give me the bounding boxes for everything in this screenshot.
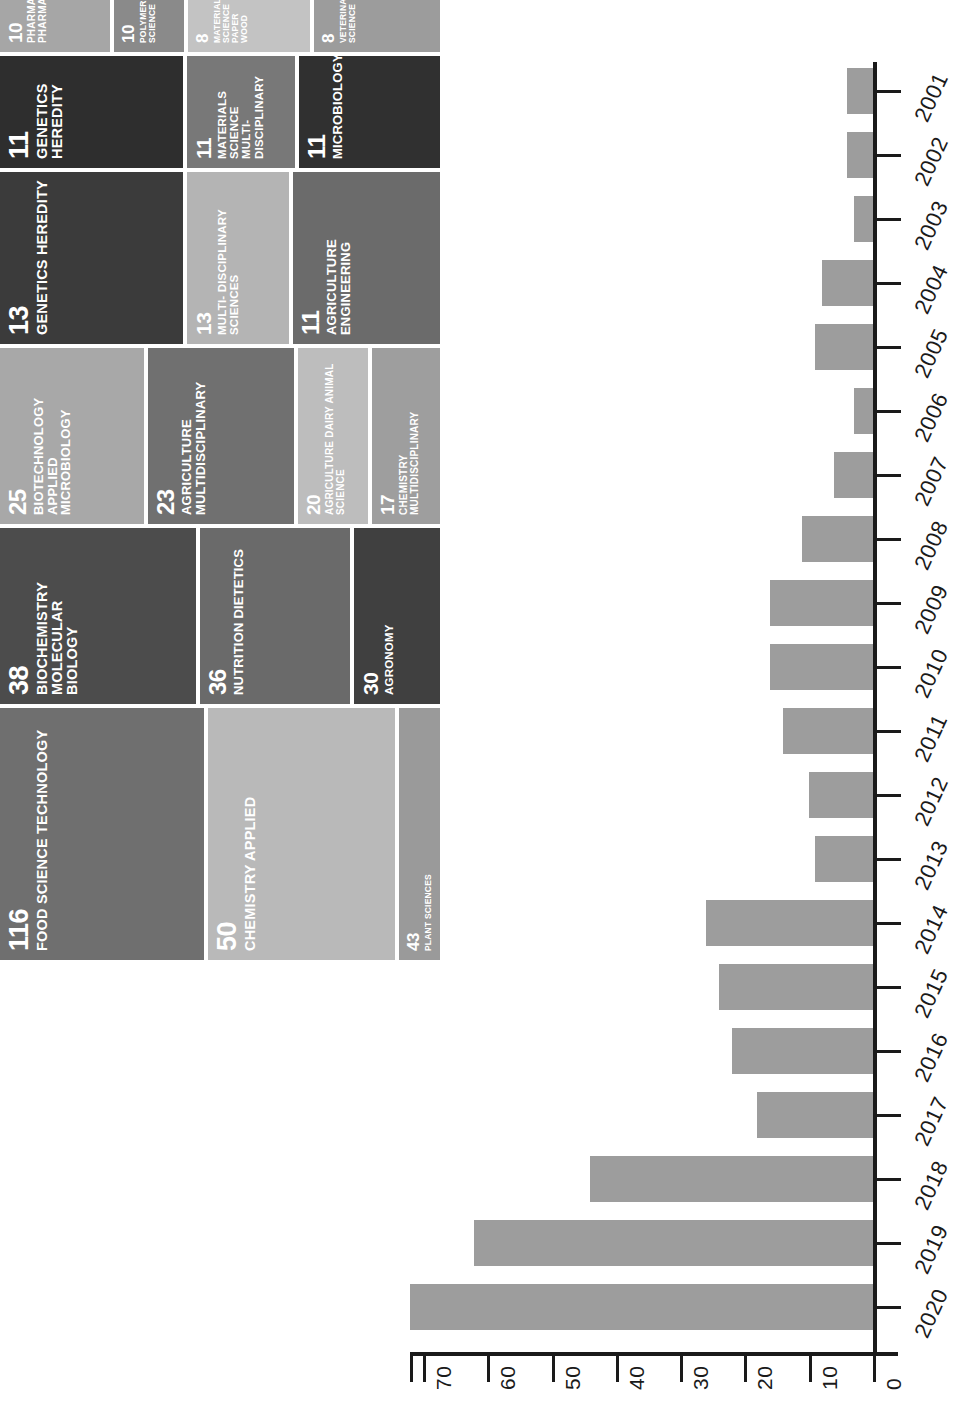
treemap-tile-value: 10 — [121, 8, 137, 43]
treemap-tile[interactable]: 116FOOD SCIENCE TECHNOLOGY — [0, 708, 204, 960]
treemap-tile-label: PHARMACOLOGY PHARMACY — [27, 8, 48, 43]
category-tick — [877, 154, 901, 157]
value-tick — [616, 1356, 619, 1382]
treemap-tile[interactable]: 36NUTRITION DIETETICS — [200, 528, 350, 704]
value-tick — [680, 1356, 683, 1382]
treemap-tile[interactable]: 13GENETICS HEREDITY — [0, 172, 183, 344]
value-label: 10 — [818, 1366, 842, 1390]
value-label: 20 — [753, 1366, 777, 1390]
category-tick — [877, 474, 901, 477]
bar[interactable] — [847, 68, 873, 114]
treemap-tile-value: 25 — [7, 356, 30, 515]
bar[interactable] — [590, 1156, 873, 1202]
category-tick — [877, 538, 901, 541]
category-tick — [877, 90, 901, 93]
treemap-tile-value: 20 — [305, 356, 323, 515]
treemap-tile-label: FOOD SCIENCE TECHNOLOGY — [35, 716, 50, 951]
bar[interactable] — [770, 644, 873, 690]
category-label: 2015 — [909, 965, 954, 1022]
bar[interactable] — [847, 132, 873, 178]
category-label: 2016 — [909, 1029, 954, 1086]
category-tick — [877, 410, 901, 413]
category-tick — [877, 986, 901, 989]
treemap-tile-label: NUTRITION DIETETICS — [232, 536, 246, 695]
category-label: 2019 — [909, 1221, 954, 1278]
treemap-tile-label: MULTI- DISCIPLINARY SCIENCES — [216, 180, 240, 335]
category-label: 2002 — [909, 133, 954, 190]
treemap-tile[interactable]: 38BIOCHEMISTRY MOLECULAR BIOLOGY — [0, 528, 196, 704]
value-label: 50 — [561, 1366, 585, 1390]
category-label: 2020 — [909, 1285, 954, 1342]
category-label: 2018 — [909, 1157, 954, 1214]
category-tick — [877, 730, 901, 733]
category-label: 2004 — [909, 261, 954, 318]
bar[interactable] — [822, 260, 873, 306]
treemap-tile[interactable]: 11MATERIALS SCIENCE MULTI- DISCIPLINARY — [187, 56, 295, 168]
treemap-tile-value: 8 — [195, 8, 211, 43]
treemap-tile-label: MICROBIOLOGY — [331, 64, 345, 159]
treemap-tile-value: 50 — [215, 716, 241, 951]
bar[interactable] — [474, 1220, 873, 1266]
bar[interactable] — [706, 900, 873, 946]
bar[interactable] — [854, 388, 873, 434]
treemap-tile-label: AGRICULTURE DAIRY ANIMAL SCIENCE — [325, 356, 346, 515]
treemap-tile[interactable]: 13MULTI- DISCIPLINARY SCIENCES — [187, 172, 289, 344]
bar[interactable] — [834, 452, 873, 498]
category-tick — [877, 858, 901, 861]
treemap-tile[interactable]: 10POLYMER SCIENCE — [114, 0, 184, 52]
treemap-tile-value: 11 — [194, 64, 214, 159]
treemap-tile-label: AGRICULTURE ENGINEERING — [325, 180, 353, 335]
treemap-tile[interactable]: 23AGRICULTURE MULTIDISCIPLINARY — [148, 348, 294, 524]
category-label: 2006 — [909, 389, 954, 446]
bar[interactable] — [770, 580, 873, 626]
treemap-tile-value: 116 — [7, 716, 33, 951]
treemap-tile[interactable]: 50CHEMISTRY APPLIED — [208, 708, 395, 960]
value-label: 0 — [882, 1378, 906, 1390]
category-label: 2005 — [909, 325, 954, 382]
bar[interactable] — [815, 324, 873, 370]
treemap-tile-value: 11 — [306, 64, 329, 159]
treemap-tile-value: 10 — [7, 8, 25, 43]
treemap-tile-value: 23 — [155, 356, 178, 515]
treemap-tile-value: 38 — [7, 536, 33, 695]
bar-chart-panel: 2001200220032004200520062007200820092010… — [370, 0, 959, 1427]
category-label: 2008 — [909, 517, 954, 574]
bar[interactable] — [757, 1092, 873, 1138]
bar[interactable] — [809, 772, 873, 818]
treemap-tile[interactable]: 8MATERIALS SCIENCE PAPER WOOD — [188, 0, 310, 52]
treemap-tile-value: 11 — [7, 64, 33, 159]
treemap-tile[interactable]: 25BIOTECHNOLOGY APPLIED MICROBIOLOGY — [0, 348, 144, 524]
treemap-tile-label: POLYMER SCIENCE — [139, 8, 157, 43]
value-tick — [423, 1356, 426, 1382]
category-label: 2007 — [909, 453, 954, 510]
treemap-tile[interactable]: 11GENETICS HEREDITY — [0, 56, 183, 168]
category-tick — [877, 282, 901, 285]
category-label: 2014 — [909, 901, 954, 958]
category-label: 2003 — [909, 197, 954, 254]
bar-chart-plot: 2001200220032004200520062007200820092010… — [370, 0, 959, 1427]
treemap-tile-value: 11 — [300, 180, 323, 335]
treemap-tile[interactable]: 20AGRICULTURE DAIRY ANIMAL SCIENCE — [298, 348, 368, 524]
category-tick — [877, 1306, 901, 1309]
value-tick — [744, 1356, 747, 1382]
treemap-tile-label: CHEMISTRY APPLIED — [243, 716, 258, 951]
value-label: 30 — [689, 1366, 713, 1390]
category-tick — [877, 218, 901, 221]
value-axis-line — [410, 1352, 898, 1356]
treemap-tile-value: 13 — [194, 180, 214, 335]
value-axis-end-tick — [410, 1356, 413, 1382]
value-label: 60 — [496, 1366, 520, 1390]
bar[interactable] — [732, 1028, 873, 1074]
treemap-tile-value: 8 — [321, 8, 337, 43]
bar[interactable] — [854, 196, 873, 242]
bar[interactable] — [802, 516, 873, 562]
bar[interactable] — [719, 964, 873, 1010]
treemap-tile-label: VETERINARY SCIENCE — [339, 8, 357, 43]
value-tick — [552, 1356, 555, 1382]
treemap-tile[interactable]: 10PHARMACOLOGY PHARMACY — [0, 0, 110, 52]
category-label: 2012 — [909, 773, 954, 830]
bar[interactable] — [410, 1284, 873, 1330]
bar[interactable] — [783, 708, 873, 754]
treemap-tile-label: GENETICS HEREDITY — [35, 64, 66, 159]
bar[interactable] — [815, 836, 873, 882]
